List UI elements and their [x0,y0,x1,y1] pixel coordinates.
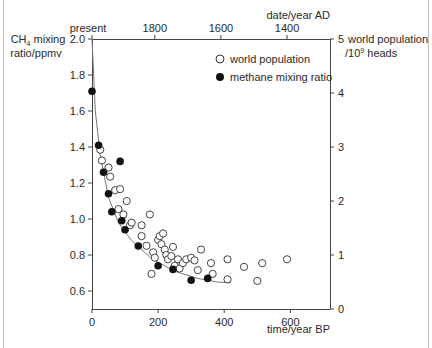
bottom-tick-label: 200 [149,316,167,328]
population-point [159,230,166,237]
left-tick-label: 0.6 [70,285,85,297]
top-tick-label: 1600 [209,22,233,34]
legend-open-label: world population [229,53,310,65]
right-tick-label: 3 [338,141,344,153]
population-point [224,256,231,263]
population-point [98,157,105,164]
population-point [128,219,135,226]
left-tick-label: 2.0 [70,33,85,45]
right-tick-label: 1 [338,249,344,261]
legend-filled-label: methane mixing ratio [230,71,332,83]
population-point [107,173,114,180]
right-tick-label: 2 [338,195,344,207]
methane-point [121,226,129,234]
top-axis-title: date/year AD [266,9,330,21]
population-point [123,197,130,204]
right-tick-label: 0 [338,303,344,315]
population-point [138,233,145,240]
methane-point [105,190,113,198]
population-point [194,267,201,274]
bottom-axis-title: time/year BP [267,323,330,335]
left-tick-label: 1.0 [70,213,85,225]
bottom-tick-label: 0 [89,316,95,328]
population-point [197,246,204,253]
population-point [116,186,123,193]
left-tick-label: 0.8 [70,249,85,261]
world-population-points [97,146,291,284]
left-axis-title: CH4 mixing [11,33,66,47]
methane-point [134,242,142,250]
legend-filled-marker-icon [216,73,224,81]
population-point [151,254,158,261]
right-tick-label: 4 [338,87,344,99]
population-point [254,277,261,284]
population-point [148,270,155,277]
population-point [224,276,231,283]
population-point [120,211,127,218]
population-point [207,260,214,267]
right-tick-label: 5 [338,33,344,45]
population-point [191,257,198,264]
left-tick-label: 1.8 [70,69,85,81]
right-axis-title: world population [347,33,428,45]
legend-open-marker-icon [216,55,224,63]
population-point [146,211,153,218]
methane-point [108,208,116,216]
methane-point [187,276,195,284]
legend: world population methane mixing ratio [216,53,332,83]
methane-point [88,87,96,95]
population-point [240,263,247,270]
top-tick-label: 1400 [275,22,299,34]
bottom-tick-label: 400 [215,316,233,328]
left-axis-title-line2: ratio/ppmv [10,47,62,59]
population-point [168,252,175,259]
population-point [259,260,266,267]
methane-point [100,168,108,176]
right-axis-title-line2: /109 heads [345,47,398,59]
methane-point [204,275,212,283]
population-point [143,242,150,249]
methane-point [95,141,103,149]
methane-point [118,217,126,225]
methane-point [169,266,177,274]
chart: 0200400600present1800160014002.01.81.61.… [0,0,432,348]
population-point [169,243,176,250]
methane-point [154,262,162,270]
left-tick-label: 1.6 [70,105,85,117]
methane-point [116,158,124,166]
population-point [283,256,290,263]
population-point [138,222,145,229]
left-tick-label: 1.2 [70,177,85,189]
left-tick-label: 1.4 [70,141,85,153]
top-tick-label: 1800 [143,22,167,34]
